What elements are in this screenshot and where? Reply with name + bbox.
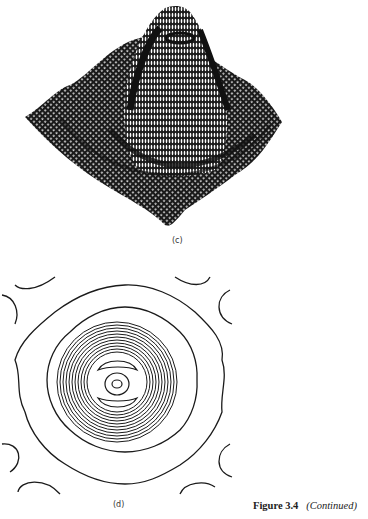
subfigure-label-c: (c) (172, 236, 183, 245)
mesh-surface-plot (0, 0, 290, 230)
contour-plot (0, 262, 250, 497)
continued-note: (Continued) (306, 500, 357, 511)
figure-number: Figure 3.4 (253, 500, 298, 511)
figure-caption: Figure 3.4 (Continued) (253, 500, 357, 511)
subfigure-label-d: (d) (113, 500, 124, 509)
